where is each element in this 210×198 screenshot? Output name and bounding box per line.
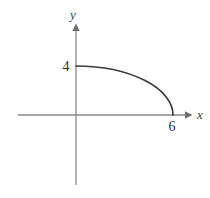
- graph-canvas: 4 6 y x: [0, 0, 210, 198]
- tick-label-y-4: 4: [63, 59, 70, 74]
- tick-label-x-6: 6: [169, 119, 176, 134]
- x-axis-label: x: [196, 107, 203, 122]
- math-figure-quarter-ellipse: 4 6 y x: [0, 0, 210, 198]
- x-axis-arrowhead: [185, 111, 193, 118]
- y-axis-arrowhead: [72, 24, 79, 32]
- curve-quarter-ellipse: [76, 66, 173, 115]
- y-axis-label: y: [68, 7, 76, 22]
